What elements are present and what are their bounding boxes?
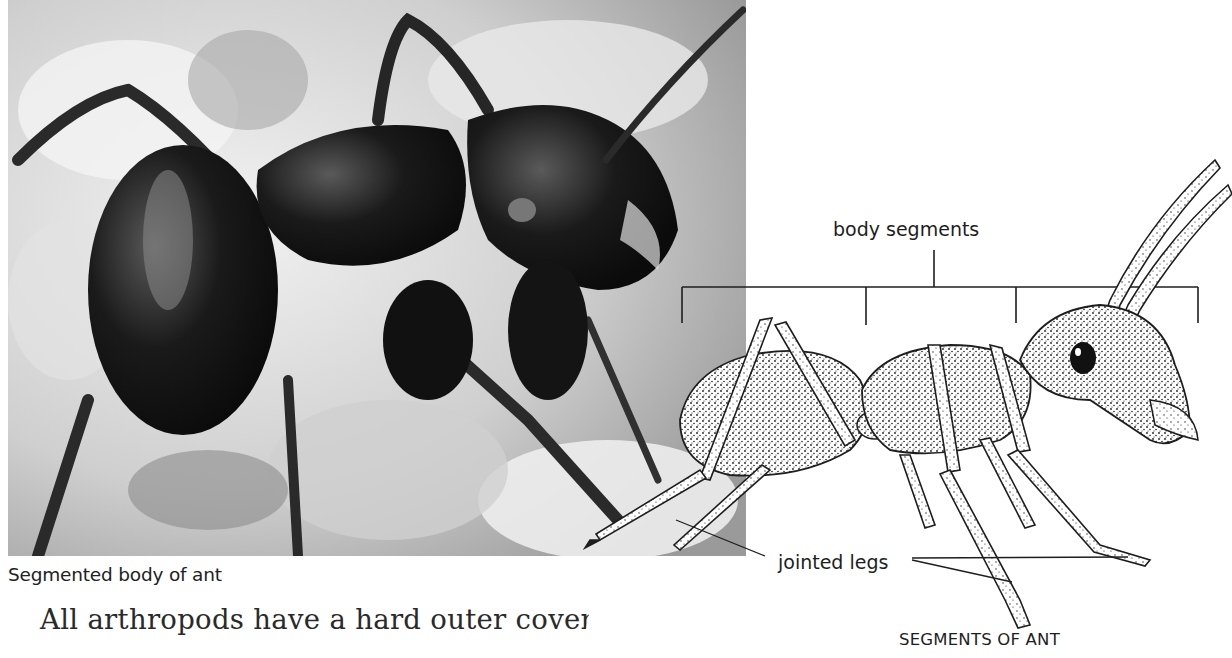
jointed-legs-label: jointed legs xyxy=(778,551,888,573)
diagram-title: SEGMENTS OF ANT xyxy=(899,630,1060,649)
eye-icon xyxy=(1070,342,1096,374)
photo-caption: Segmented body of ant xyxy=(8,564,222,585)
body-segments-label: body segments xyxy=(833,218,979,240)
